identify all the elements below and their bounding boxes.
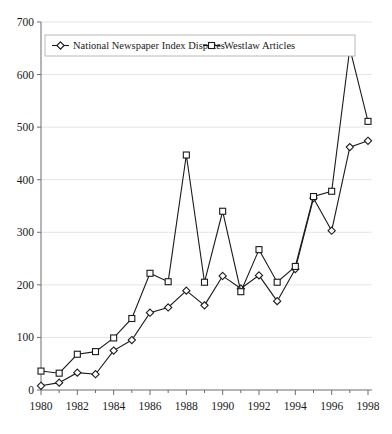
- x-tick-label: 1994: [284, 400, 307, 412]
- x-axis-ticks: [41, 390, 368, 395]
- data-point: [37, 382, 44, 389]
- series-line: [41, 141, 368, 386]
- data-point: [365, 118, 371, 124]
- y-tick-label: 600: [17, 69, 35, 81]
- data-point: [111, 335, 117, 341]
- data-point: [129, 316, 135, 322]
- y-tick-label: 300: [17, 226, 35, 238]
- data-point: [311, 194, 317, 200]
- x-tick-label: 1982: [66, 400, 89, 412]
- legend-label: National Newspaper Index Disputes: [73, 40, 225, 51]
- data-point: [256, 247, 262, 253]
- legend-label: Westlaw Articles: [224, 40, 295, 51]
- data-point: [328, 227, 335, 234]
- data-point: [346, 144, 353, 151]
- data-point: [74, 351, 80, 357]
- data-point: [202, 279, 208, 285]
- data-point: [183, 152, 189, 158]
- data-point: [74, 369, 81, 376]
- y-axis-ticks: [37, 22, 41, 390]
- y-tick-label: 200: [17, 279, 35, 291]
- x-tick-label: 1992: [248, 400, 271, 412]
- data-point: [146, 309, 153, 316]
- line-chart: 0100200300400500600700 19801982198419861…: [0, 0, 392, 434]
- data-point: [38, 368, 44, 374]
- data-point: [274, 298, 281, 305]
- x-tick-label: 1986: [139, 400, 162, 412]
- data-point: [329, 188, 335, 194]
- data-point: [56, 370, 62, 376]
- data-point: [255, 272, 262, 279]
- legend-marker-square: [209, 43, 215, 49]
- x-tick-label: 1996: [320, 400, 343, 412]
- data-point: [274, 279, 280, 285]
- x-tick-label: 1998: [357, 400, 380, 412]
- x-tick-label: 1990: [211, 400, 234, 412]
- legend-item-1[interactable]: National Newspaper Index Disputes: [52, 40, 225, 51]
- x-axis-tick-labels: 1980198219841986198819901992199419961998: [30, 400, 380, 412]
- y-tick-label: 400: [17, 174, 35, 186]
- x-tick-label: 1984: [102, 400, 125, 412]
- x-tick-label: 1988: [175, 400, 198, 412]
- data-point: [165, 279, 171, 285]
- data-point: [292, 263, 298, 269]
- data-point: [219, 272, 226, 279]
- y-tick-label: 500: [17, 121, 35, 133]
- series-1: [37, 137, 371, 389]
- x-tick-label: 1980: [30, 400, 53, 412]
- data-point: [364, 137, 371, 144]
- chart-container: 0100200300400500600700 19801982198419861…: [0, 0, 392, 434]
- data-point: [93, 349, 99, 355]
- series-line: [41, 48, 368, 373]
- y-axis-tick-labels: 0100200300400500600700: [17, 16, 35, 396]
- data-point: [56, 379, 63, 386]
- gridlines: [41, 22, 372, 337]
- y-tick-label: 700: [17, 16, 35, 28]
- data-point: [220, 208, 226, 214]
- chart-legend[interactable]: National Newspaper Index DisputesWestlaw…: [45, 35, 355, 56]
- data-point: [238, 289, 244, 295]
- data-point: [147, 270, 153, 276]
- y-tick-label: 0: [28, 384, 34, 396]
- y-tick-label: 100: [17, 331, 35, 343]
